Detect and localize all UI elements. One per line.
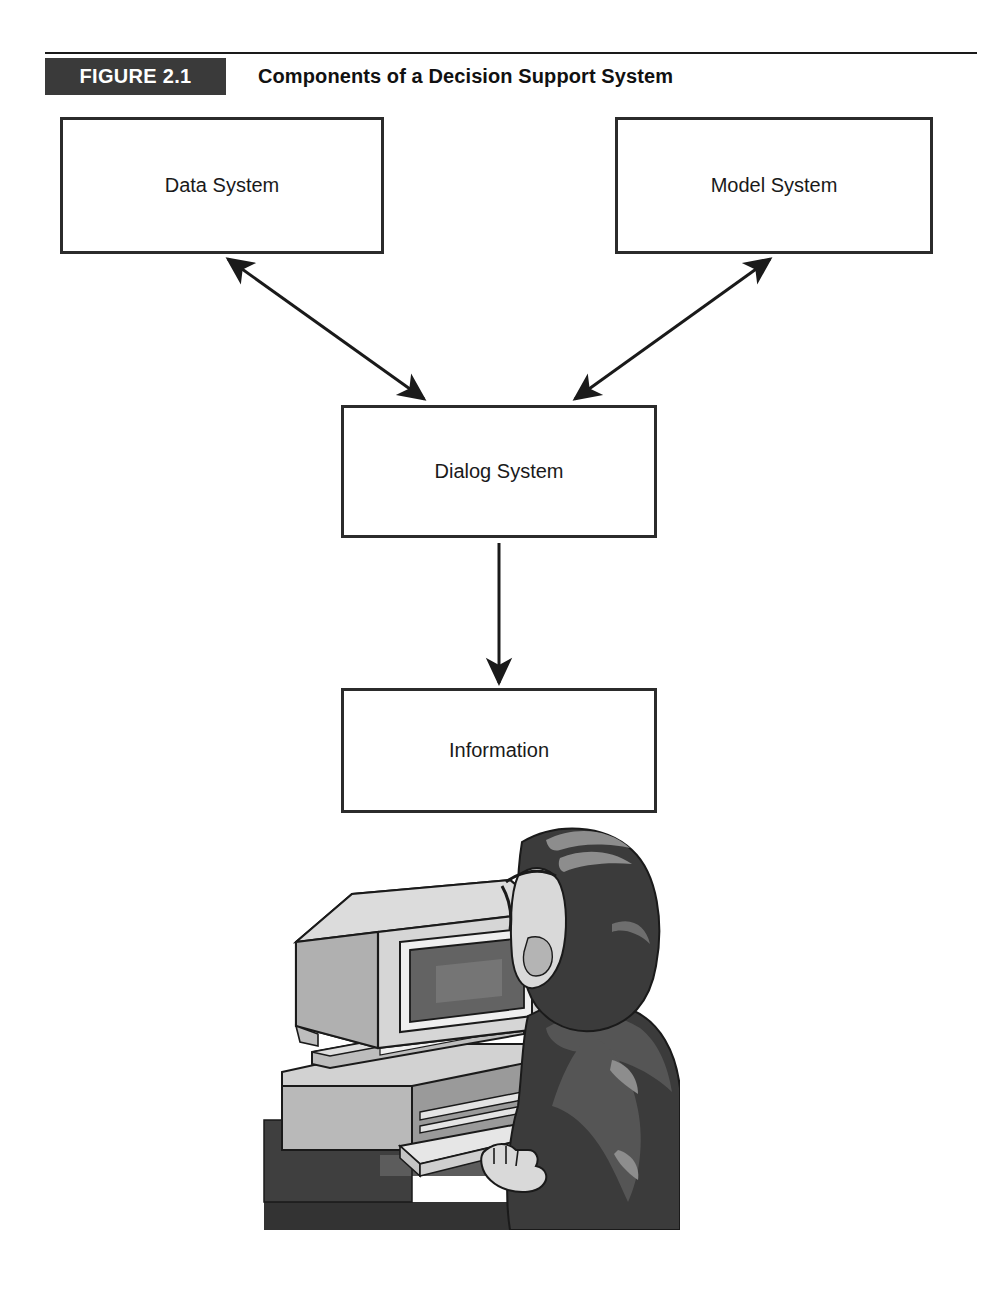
node-model-system: Model System [615, 117, 933, 254]
figure-number-badge: FIGURE 2.1 [45, 58, 226, 95]
figure-page: FIGURE 2.1 Components of a Decision Supp… [0, 0, 999, 1293]
computer-user-illustration [260, 820, 680, 1230]
node-data-system-label: Data System [165, 174, 279, 197]
arrow-model-dialog [575, 259, 770, 399]
node-dialog-system: Dialog System [341, 405, 657, 538]
node-information-label: Information [449, 739, 549, 762]
figure-title: Components of a Decision Support System [258, 58, 673, 95]
arrow-data-dialog [228, 259, 424, 399]
node-dialog-system-label: Dialog System [435, 460, 564, 483]
node-model-system-label: Model System [711, 174, 838, 197]
header-divider [45, 52, 977, 54]
node-data-system: Data System [60, 117, 384, 254]
node-information: Information [341, 688, 657, 813]
figure-number-label: FIGURE 2.1 [80, 65, 192, 88]
